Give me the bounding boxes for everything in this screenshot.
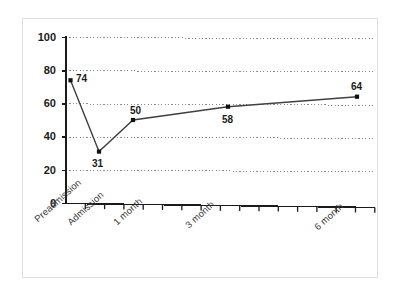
chart-frame (22, 18, 378, 278)
ytick-label-80: 80 (22, 65, 56, 76)
data-label-1-month: 50 (130, 106, 141, 116)
data-label-6-month: 64 (351, 82, 362, 92)
chart-figure: 100 80 60 40 20 0 Preadmission Admission… (0, 0, 398, 297)
ytick-label-60: 60 (22, 98, 56, 109)
data-label-3-month: 58 (222, 115, 233, 125)
data-label-admission: 31 (92, 159, 103, 169)
ytick-label-20: 20 (22, 165, 56, 176)
ytick-label-100: 100 (22, 32, 56, 43)
ytick-label-40: 40 (22, 131, 56, 142)
data-label-preadmission: 74 (76, 74, 87, 84)
